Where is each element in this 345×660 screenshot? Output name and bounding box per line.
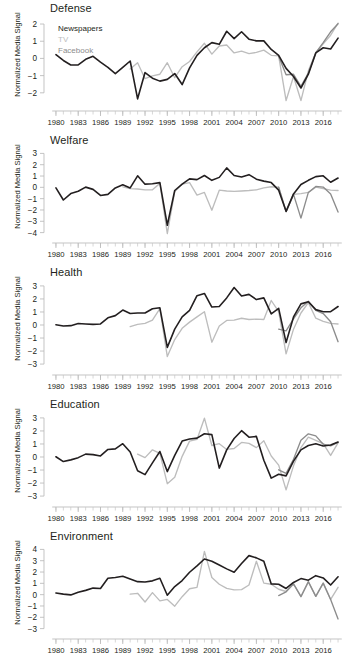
panel-health: HealthNormalized Media Signal−3−2−101231… — [0, 264, 345, 396]
svg-text:1986: 1986 — [92, 646, 109, 655]
svg-text:1: 1 — [32, 308, 37, 317]
svg-text:2010: 2010 — [270, 646, 287, 655]
svg-text:1980: 1980 — [47, 118, 64, 127]
svg-text:1: 1 — [32, 37, 37, 46]
x-axis: 1980198319861989199219951998200120042007… — [47, 243, 341, 259]
x-axis: 1980198319861989199219951998200120042007… — [47, 375, 341, 391]
y-axis: −3−2−10123 — [28, 282, 44, 369]
svg-text:1980: 1980 — [47, 382, 64, 391]
panel-welfare: WelfareNormalized Media Signal−4−3−2−101… — [0, 132, 345, 264]
svg-text:2013: 2013 — [292, 514, 309, 523]
svg-text:1998: 1998 — [181, 250, 198, 259]
svg-text:2013: 2013 — [292, 646, 309, 655]
svg-text:−1: −1 — [28, 466, 38, 475]
svg-text:1998: 1998 — [181, 118, 198, 127]
svg-text:2016: 2016 — [315, 514, 332, 523]
svg-text:4: 4 — [32, 545, 37, 554]
svg-text:2007: 2007 — [248, 646, 265, 655]
media-signal-figure: DefenseNormalized Media Signal−2−1012198… — [0, 0, 345, 660]
svg-text:2001: 2001 — [203, 514, 220, 523]
svg-text:1: 1 — [32, 172, 37, 181]
svg-text:1995: 1995 — [159, 250, 176, 259]
svg-text:2013: 2013 — [292, 118, 309, 127]
svg-text:2004: 2004 — [226, 382, 244, 391]
svg-text:1998: 1998 — [181, 382, 198, 391]
svg-text:2001: 2001 — [203, 118, 220, 127]
svg-text:−4: −4 — [28, 229, 38, 238]
svg-text:2013: 2013 — [292, 250, 309, 259]
svg-text:1992: 1992 — [136, 250, 153, 259]
svg-text:1992: 1992 — [136, 514, 153, 523]
svg-text:2: 2 — [32, 427, 37, 436]
svg-text:1986: 1986 — [92, 382, 109, 391]
svg-text:2: 2 — [32, 295, 37, 304]
svg-text:2016: 2016 — [315, 646, 332, 655]
svg-text:2016: 2016 — [315, 382, 332, 391]
svg-text:1989: 1989 — [114, 250, 131, 259]
x-axis: 1980198319861989199219951998200120042007… — [47, 639, 341, 655]
svg-text:2016: 2016 — [315, 118, 332, 127]
svg-text:1983: 1983 — [70, 118, 87, 127]
svg-text:−1: −1 — [28, 195, 38, 204]
svg-text:1983: 1983 — [70, 646, 87, 655]
svg-text:2004: 2004 — [226, 250, 244, 259]
panel-education: EducationNormalized Media Signal−3−2−101… — [0, 396, 345, 528]
y-axis: −3−2−10123 — [28, 414, 44, 501]
svg-text:1983: 1983 — [70, 250, 87, 259]
svg-text:2: 2 — [32, 568, 37, 577]
series-line-tv — [130, 301, 338, 357]
svg-text:3: 3 — [32, 149, 37, 158]
svg-text:−2: −2 — [28, 479, 38, 488]
svg-text:1995: 1995 — [159, 514, 176, 523]
svg-text:−2: −2 — [28, 613, 38, 622]
svg-text:0: 0 — [32, 321, 37, 330]
svg-text:2004: 2004 — [226, 118, 244, 127]
svg-text:2007: 2007 — [248, 118, 265, 127]
svg-text:2001: 2001 — [203, 382, 220, 391]
svg-text:1992: 1992 — [136, 646, 153, 655]
svg-text:1980: 1980 — [47, 514, 64, 523]
svg-text:1992: 1992 — [136, 118, 153, 127]
y-axis: −2−1012 — [28, 20, 44, 98]
svg-text:1998: 1998 — [181, 514, 198, 523]
svg-text:−3: −3 — [28, 217, 38, 226]
svg-text:1992: 1992 — [136, 382, 153, 391]
x-axis: 1980198319861989199219951998200120042007… — [47, 507, 341, 523]
svg-text:1986: 1986 — [92, 514, 109, 523]
svg-text:3: 3 — [32, 414, 37, 423]
svg-text:3: 3 — [32, 557, 37, 566]
svg-text:−2: −2 — [28, 206, 38, 215]
legend-item-tv: TV — [58, 35, 69, 44]
svg-text:1980: 1980 — [47, 646, 64, 655]
svg-text:−3: −3 — [28, 625, 38, 634]
svg-text:−3: −3 — [28, 360, 38, 369]
svg-text:1980: 1980 — [47, 250, 64, 259]
svg-text:2010: 2010 — [270, 382, 287, 391]
series-line-facebook — [279, 24, 338, 87]
plot-area: −3−2−10123419801983198619891992199519982… — [0, 528, 345, 660]
svg-text:1995: 1995 — [159, 382, 176, 391]
svg-text:2013: 2013 — [292, 382, 309, 391]
legend-item-facebook: Facebook — [58, 46, 94, 55]
svg-text:1995: 1995 — [159, 118, 176, 127]
plot-area: −3−2−10123198019831986198919921995199820… — [0, 264, 345, 396]
svg-text:−1: −1 — [28, 334, 38, 343]
series-line-tv — [138, 418, 338, 490]
svg-text:2007: 2007 — [248, 382, 265, 391]
svg-text:2001: 2001 — [203, 250, 220, 259]
svg-text:1986: 1986 — [92, 250, 109, 259]
svg-text:1998: 1998 — [181, 646, 198, 655]
svg-text:2016: 2016 — [315, 250, 332, 259]
svg-text:1983: 1983 — [70, 382, 87, 391]
plot-area: −2−1012198019831986198919921995199820012… — [0, 0, 345, 132]
plot-area: −4−3−2−101231980198319861989199219951998… — [0, 132, 345, 264]
svg-text:2: 2 — [32, 20, 37, 29]
svg-text:2010: 2010 — [270, 250, 287, 259]
svg-text:1989: 1989 — [114, 118, 131, 127]
x-axis: 1980198319861989199219951998200120042007… — [47, 111, 341, 127]
legend-item-newspapers: Newspapers — [58, 24, 102, 33]
svg-text:−1: −1 — [28, 72, 38, 81]
series-line-facebook — [279, 186, 338, 218]
svg-text:1989: 1989 — [114, 514, 131, 523]
svg-text:0: 0 — [32, 453, 37, 462]
